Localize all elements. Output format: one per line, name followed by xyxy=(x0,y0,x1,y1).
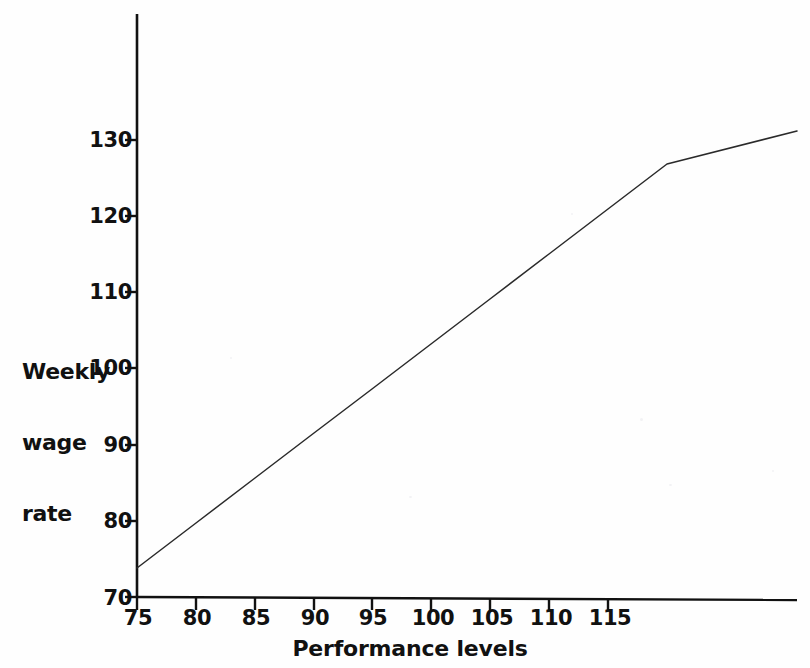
y-axis-title-line: rate xyxy=(22,502,110,526)
x-tick-label: 85 xyxy=(242,608,270,629)
series-line-weekly-wage-rate xyxy=(137,131,797,568)
y-axis-title-line: Weekly xyxy=(22,360,110,384)
y-axis-title-line: wage xyxy=(22,431,110,455)
x-tick-label-group: 75 80 85 90 95 100 105 110 115 xyxy=(0,608,810,638)
line-chart: 70 80 90 100 110 120 130 75 80 85 90 95 … xyxy=(0,0,810,668)
y-tick-label: 130 xyxy=(89,130,132,151)
x-tick-label: 80 xyxy=(183,608,211,629)
x-tick-label: 115 xyxy=(589,608,632,629)
x-tick-label: 95 xyxy=(359,608,387,629)
x-axis-title-text: Performance levels xyxy=(292,636,527,661)
x-axis-line xyxy=(136,597,797,600)
y-tick-label: 110 xyxy=(89,282,132,303)
x-tick-label: 90 xyxy=(301,608,329,629)
y-axis-title: Weekly wage rate xyxy=(22,312,110,573)
x-axis-title: Performance levels xyxy=(0,636,810,661)
y-tick-label: 120 xyxy=(89,206,132,227)
x-tick-label: 110 xyxy=(530,608,573,629)
x-tick-label: 100 xyxy=(412,608,455,629)
x-tick-label: 105 xyxy=(471,608,514,629)
chart-page: 70 80 90 100 110 120 130 75 80 85 90 95 … xyxy=(0,0,810,668)
x-tick-label: 75 xyxy=(124,608,152,629)
